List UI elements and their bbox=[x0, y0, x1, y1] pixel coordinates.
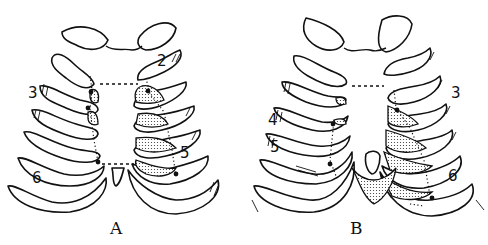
panel-a: 2 3 5 6 A bbox=[8, 23, 219, 238]
panel-a-caption: A bbox=[109, 218, 123, 238]
panel-b: 3 4 5 6 B bbox=[252, 16, 484, 238]
panel-a-rib-label-3: 3 bbox=[28, 84, 38, 102]
panel-b-rib-label-4: 4 bbox=[268, 111, 278, 129]
panel-b-rib-label-3: 3 bbox=[451, 84, 461, 102]
panel-a-rib-label-6: 6 bbox=[32, 169, 42, 187]
rib-cage-figure: 2 3 5 6 A bbox=[0, 0, 488, 245]
panel-a-rib-label-5: 5 bbox=[180, 144, 190, 162]
panel-b-rib-label-5: 5 bbox=[270, 138, 280, 156]
panel-b-rib-label-6: 6 bbox=[448, 167, 458, 185]
panel-a-rib-label-2: 2 bbox=[157, 52, 167, 70]
panel-b-caption: B bbox=[350, 218, 363, 238]
